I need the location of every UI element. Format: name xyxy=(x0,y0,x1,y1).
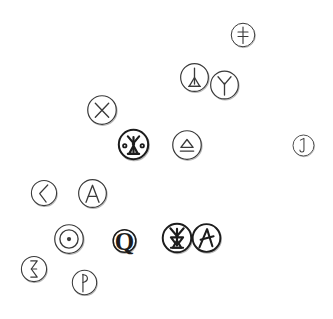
token-ring xyxy=(79,180,107,208)
letter-a-plain-icon-shape xyxy=(76,176,109,211)
triangle-stem-icon-shape xyxy=(178,59,211,96)
letter-q-icon[interactable]: Q xyxy=(111,221,138,261)
hook-one-icon[interactable] xyxy=(291,127,316,164)
circled-dot-icon[interactable] xyxy=(52,222,86,256)
psi-y-icon[interactable] xyxy=(208,66,241,104)
x-cross-icon[interactable] xyxy=(85,92,119,128)
hook-one-icon-shape xyxy=(291,127,316,164)
dotted-totem-icon[interactable] xyxy=(116,127,151,162)
hourglass-icon-shape xyxy=(19,251,49,287)
letter-q-icon-shape xyxy=(111,221,138,261)
flag-p-icon-shape xyxy=(70,263,99,302)
flag-p-icon[interactable] xyxy=(70,263,99,302)
psi-y-icon-shape xyxy=(208,66,241,104)
letter-a-slant-icon-shape xyxy=(190,221,223,255)
eject-triangle-icon-shape xyxy=(170,128,204,162)
hourglass-icon[interactable] xyxy=(19,251,49,287)
chevron-left-icon[interactable] xyxy=(29,174,59,212)
hourglass-totem-icon-shape xyxy=(160,220,194,256)
double-cross-icon[interactable] xyxy=(229,16,257,54)
letter-a-plain-icon[interactable] xyxy=(76,176,109,211)
circled-dot-icon-shape xyxy=(52,222,86,256)
triangle-stem-icon[interactable] xyxy=(178,59,211,96)
x-cross-icon-shape xyxy=(85,92,119,128)
dotted-totem-icon-shape xyxy=(116,127,151,162)
token-ring xyxy=(31,180,56,205)
double-cross-icon-shape xyxy=(229,16,257,54)
token-ring xyxy=(173,131,202,160)
hourglass-totem-icon[interactable] xyxy=(160,220,194,256)
chevron-left-icon-shape xyxy=(29,174,59,212)
eject-triangle-icon[interactable] xyxy=(170,128,204,162)
token-ring xyxy=(113,230,136,253)
symbol-scatter-canvas: Q xyxy=(0,0,333,319)
letter-a-slant-icon[interactable] xyxy=(190,221,223,255)
